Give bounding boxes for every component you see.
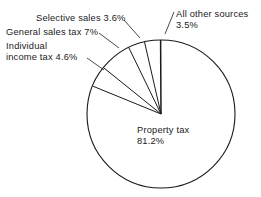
slice-label-individual-income-tax: Individual income tax 4.6% xyxy=(6,41,78,64)
slice-label-selective-sales-text: Selective sales 3.6% xyxy=(36,13,126,23)
slice-label-property-tax-line2: 81.2% xyxy=(137,136,189,147)
slice-label-property-tax-line1: Property tax xyxy=(137,125,189,136)
slice-label-general-sales-tax-text: General sales tax 7% xyxy=(6,27,98,37)
slice-label-individual-income-tax-line2: income tax 4.6% xyxy=(6,52,78,63)
slice-label-all-other-sources-line1: All other sources xyxy=(176,9,248,20)
slice-label-property-tax: Property tax 81.2% xyxy=(137,125,189,148)
slice-label-selective-sales: Selective sales 3.6% xyxy=(36,13,126,24)
leader-line-selective-sales xyxy=(124,20,140,38)
slice-label-all-other-sources: All other sources 3.5% xyxy=(176,9,248,32)
leader-line-general-sales-tax xyxy=(99,33,119,48)
slice-label-all-other-sources-line2: 3.5% xyxy=(176,20,248,31)
leader-line-all-other-sources xyxy=(165,12,174,34)
pie-chart-figure: Selective sales 3.6% General sales tax 7… xyxy=(0,0,261,197)
slice-label-general-sales-tax: General sales tax 7% xyxy=(6,27,98,38)
leader-line-individual-income-tax xyxy=(87,58,104,70)
slice-label-individual-income-tax-line1: Individual xyxy=(6,41,78,52)
